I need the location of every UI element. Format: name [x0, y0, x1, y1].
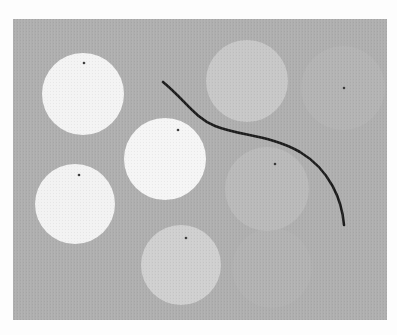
image-canvas [0, 0, 397, 335]
scene-svg [0, 0, 397, 335]
texture-overlay [13, 19, 387, 320]
